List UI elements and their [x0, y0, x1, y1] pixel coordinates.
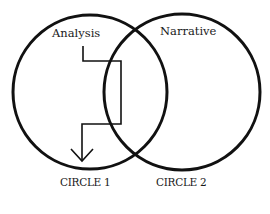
circle-1-caption: CIRCLE 1	[60, 176, 110, 188]
circle-2-label: Narrative	[160, 24, 217, 38]
venn-diagram: Analysis Narrative CIRCLE 1 CIRCLE 2	[0, 0, 270, 214]
down-arrow-icon	[71, 46, 121, 161]
circle-2-caption: CIRCLE 2	[156, 176, 206, 188]
circle-1-label: Analysis	[51, 26, 100, 40]
